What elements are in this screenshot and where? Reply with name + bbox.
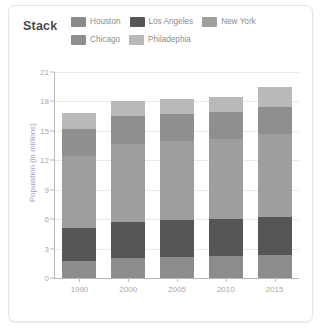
y-axis-tick-mark [50,219,54,220]
chart-legend: HoustonLos AngelesNew YorkChicagoPhilade… [71,14,312,50]
x-axis-tick-mark [128,278,129,282]
x-axis-tick-label: 2015 [266,285,284,294]
y-axis-tick-mark [50,248,54,249]
legend-swatch-icon [129,35,144,45]
y-axis-tick-label: 0 [45,274,49,283]
legend-item-label: Los Angeles [149,17,194,27]
bar-segment[interactable] [111,258,145,278]
bar-segment[interactable] [209,97,243,113]
bar-series-container: 19902000200520102015 [55,72,299,278]
y-axis-tick-mark [50,130,54,131]
legend-item[interactable]: Houston [71,14,121,30]
legend-item[interactable]: Philadephia [129,32,191,48]
y-axis-tick-mark [50,278,54,279]
legend-item[interactable]: Los Angeles [130,14,194,30]
legend-item[interactable]: New York [202,14,256,30]
bar-segment[interactable] [258,217,292,255]
legend-swatch-icon [202,17,217,27]
bar-segment[interactable] [62,156,96,228]
bar-segment[interactable] [160,220,194,257]
bar-segment[interactable] [62,228,96,261]
x-axis-tick-label: 2010 [217,285,235,294]
y-axis-tick-mark [50,189,54,190]
y-axis-tick-label: 12 [40,156,49,165]
bar-group[interactable]: 2005 [160,72,194,278]
bar-segment[interactable] [258,255,292,278]
legend-item-label: Houston [90,17,121,27]
legend-item-label: Philadephia [148,35,191,45]
bar-segment[interactable] [111,144,145,222]
bar-group[interactable]: 2015 [258,72,292,278]
y-axis-tick-label: 6 [45,215,49,224]
bar-segment[interactable] [62,261,96,278]
y-axis-tick-mark [50,101,54,102]
legend-swatch-icon [71,35,86,45]
bar-segment[interactable] [258,107,292,133]
bar-segment[interactable] [258,87,292,108]
y-axis-tick-label: 9 [45,185,49,194]
legend-item-label: New York [221,17,256,27]
bar-segment[interactable] [160,141,194,220]
legend-swatch-icon [71,17,86,27]
page-title: Stack [9,14,71,34]
bar-segment[interactable] [160,114,194,140]
y-axis-tick-label: 21 [40,68,49,77]
y-axis-tick-label: 18 [40,97,49,106]
x-axis-tick-mark [275,278,276,282]
bar-segment[interactable] [258,134,292,217]
bar-segment[interactable] [209,139,243,219]
legend-item[interactable]: Chicago [71,32,120,48]
legend-swatch-icon [130,17,145,27]
x-axis-tick-label: 2005 [168,285,186,294]
bar-segment[interactable] [62,113,96,129]
chart-card: Stack HoustonLos AngelesNew YorkChicagoP… [8,5,313,322]
axis-area: 036912151821 19902000200520102015 [55,72,299,278]
x-axis-tick-mark [177,278,178,282]
bar-segment[interactable] [62,129,96,156]
y-axis-label: Population (in millions) [28,93,37,233]
y-axis-tick-mark [50,160,54,161]
bar-segment[interactable] [111,101,145,116]
bar-group[interactable]: 2010 [209,72,243,278]
bar-group[interactable]: 2000 [111,72,145,278]
plot-area: Population (in millions) 036912151821 19… [9,66,313,318]
bar-segment[interactable] [111,222,145,258]
bar-segment[interactable] [160,99,194,115]
bar-segment[interactable] [111,116,145,143]
bar-segment[interactable] [209,219,243,256]
x-axis-tick-mark [79,278,80,282]
x-axis-tick-label: 2000 [119,285,137,294]
y-axis-tick-mark [50,72,54,73]
bar-group[interactable]: 1990 [62,72,96,278]
x-axis-tick-mark [226,278,227,282]
bar-segment[interactable] [209,256,243,278]
y-axis-tick-label: 3 [45,244,49,253]
chart-header: Stack HoustonLos AngelesNew YorkChicagoP… [9,14,312,50]
x-axis-tick-label: 1990 [70,285,88,294]
y-axis-tick-label: 15 [40,126,49,135]
legend-item-label: Chicago [90,35,120,45]
bar-segment[interactable] [160,257,194,278]
bar-segment[interactable] [209,112,243,138]
